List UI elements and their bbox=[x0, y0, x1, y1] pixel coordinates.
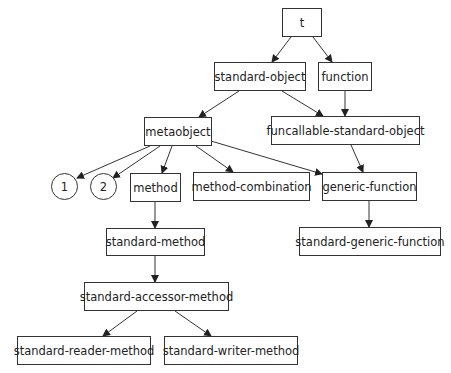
edge-standard-object-to-funcallable-standard-object bbox=[282, 91, 323, 116]
node-c1: 1 bbox=[51, 173, 78, 200]
node-generic-function: generic-function bbox=[322, 172, 417, 201]
node-standard-reader-method: standard-reader-method bbox=[17, 336, 151, 365]
edge-standard-accessor-method-to-standard-writer-method bbox=[175, 311, 211, 336]
edge-funcallable-standard-object-to-generic-function bbox=[351, 145, 363, 172]
node-standard-generic-function: standard-generic-function bbox=[299, 227, 441, 256]
node-t: t bbox=[282, 8, 322, 37]
node-funcallable-standard-object: funcallable-standard-object bbox=[271, 116, 420, 145]
edge-t-to-function bbox=[313, 37, 332, 62]
node-standard-accessor-method: standard-accessor-method bbox=[84, 282, 229, 311]
node-method-combination: method-combination bbox=[193, 172, 310, 201]
node-standard-method: standard-method bbox=[106, 228, 205, 256]
node-method: method bbox=[130, 173, 181, 202]
edge-t-to-standard-object bbox=[272, 37, 291, 62]
edge-metaobject-to-method-combination bbox=[196, 146, 233, 172]
edge-standard-object-to-metaobject bbox=[199, 91, 239, 117]
node-c2: 2 bbox=[90, 173, 117, 200]
node-function: function bbox=[318, 62, 372, 91]
node-standard-object: standard-object bbox=[214, 62, 306, 91]
edge-metaobject-to-generic-function bbox=[211, 141, 322, 174]
node-metaobject: metaobject bbox=[144, 117, 212, 146]
edge-standard-accessor-method-to-standard-reader-method bbox=[103, 311, 137, 336]
edge-metaobject-to-method bbox=[162, 146, 172, 173]
node-standard-writer-method: standard-writer-method bbox=[164, 336, 298, 365]
